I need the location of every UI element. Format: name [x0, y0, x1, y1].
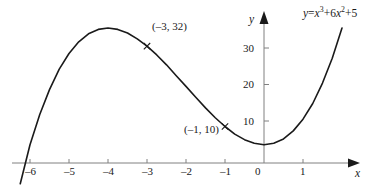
- y-axis-label: y: [249, 14, 254, 26]
- y-axis-ticks: [264, 48, 269, 121]
- x-tick-label-neg5: –5: [64, 166, 75, 177]
- y-axis-arrow-icon: [260, 11, 269, 24]
- equation-term3: 5: [351, 7, 357, 19]
- x-tick-label-neg6: –6: [25, 166, 36, 177]
- y-tick-label-20: 20: [243, 79, 254, 90]
- x-axis-ticks: [30, 159, 303, 163]
- point-label-minus1-10: (–1, 10): [184, 124, 219, 135]
- x-tick-label-neg2: –2: [181, 166, 192, 177]
- x-tick-label-neg1: –1: [220, 166, 231, 177]
- x-tick-label-1: 1: [300, 166, 306, 177]
- cubic-function-graph: y x y=x3+6x2+5 –6 –5 –4 –3 –2 –1 0 1 30 …: [0, 0, 391, 187]
- x-tick-label-0: 0: [255, 166, 261, 177]
- plot-canvas: [0, 0, 391, 187]
- x-axis-label: x: [355, 168, 360, 180]
- x-tick-label-neg3: –3: [142, 166, 153, 177]
- x-tick-label-neg4: –4: [103, 166, 114, 177]
- equation-label: y=x3+6x2+5: [303, 8, 357, 20]
- y-tick-label-30: 30: [243, 43, 254, 54]
- point-label-minus3-32: (–3, 32): [152, 21, 187, 32]
- y-tick-label-10: 10: [243, 116, 254, 127]
